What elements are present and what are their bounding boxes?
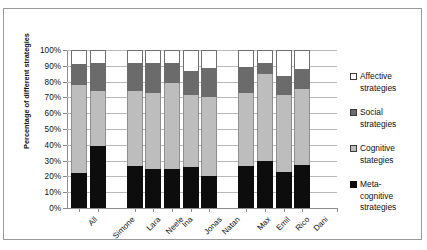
- bar-segment-affective[interactable]: [183, 50, 199, 71]
- bar-segment-affective[interactable]: [145, 50, 161, 63]
- y-axis-label: 10%: [45, 188, 61, 197]
- bar-segment-affective[interactable]: [238, 50, 254, 67]
- y-axis-tick: [63, 82, 67, 83]
- bar-segment-meta-cognitive[interactable]: [145, 169, 161, 208]
- x-axis-label: Lara: [144, 215, 162, 233]
- x-axis-label: Ina: [180, 215, 194, 229]
- chart-frame: Percentage of different strategies 0%10%…: [3, 8, 422, 240]
- bar-segment-cognitive[interactable]: [276, 95, 292, 172]
- legend-item[interactable]: Affectivestrategies: [350, 71, 426, 94]
- bar-segment-social[interactable]: [127, 63, 143, 91]
- bar-segment-cognitive[interactable]: [90, 91, 106, 146]
- bar-segment-social[interactable]: [71, 64, 87, 85]
- cognitive-swatch-icon: [350, 145, 357, 152]
- x-axis-tick: [337, 208, 338, 212]
- bar-segment-meta-cognitive[interactable]: [183, 167, 199, 208]
- y-axis-tick: [63, 97, 67, 98]
- y-axis-tick: [63, 161, 67, 162]
- bar-column[interactable]: [257, 50, 273, 208]
- bar-segment-affective[interactable]: [276, 50, 292, 76]
- y-axis-tick: [63, 192, 67, 193]
- legend-item-label: Affectivestrategies: [360, 71, 396, 94]
- legend-item-label: Meta-cognitivestrategies: [360, 179, 396, 214]
- bar-segment-social[interactable]: [90, 63, 106, 91]
- bar-column[interactable]: [164, 50, 180, 208]
- bar-segment-affective[interactable]: [90, 50, 106, 63]
- bar-segment-affective[interactable]: [201, 50, 217, 68]
- bar-column[interactable]: [90, 50, 106, 208]
- y-axis-label: 90%: [45, 61, 61, 70]
- legend-item[interactable]: Meta-cognitivestrategies: [350, 179, 426, 214]
- legend-item-label: Cognitivestategies: [360, 143, 395, 166]
- bar-segment-social[interactable]: [183, 71, 199, 95]
- bar-segment-cognitive[interactable]: [145, 93, 161, 169]
- bar-segment-affective[interactable]: [257, 50, 273, 63]
- legend-item[interactable]: Cognitivestategies: [350, 143, 426, 166]
- x-axis-label: Max: [256, 215, 273, 232]
- bar-segment-social[interactable]: [257, 63, 273, 73]
- y-axis-label: 40%: [45, 140, 61, 149]
- x-axis-label: Rico: [293, 215, 311, 233]
- bar-segment-meta-cognitive[interactable]: [71, 173, 87, 208]
- bar-segment-meta-cognitive[interactable]: [276, 172, 292, 208]
- x-axis-label: Jonas: [202, 215, 223, 236]
- plot-area: 0%10%20%30%40%50%60%70%80%90%100% AllSim…: [67, 50, 337, 208]
- bar-segment-social[interactable]: [276, 76, 292, 95]
- y-axis-label: 80%: [45, 77, 61, 86]
- bar-segment-cognitive[interactable]: [127, 91, 143, 166]
- y-axis-label: 20%: [45, 172, 61, 181]
- bar-segment-meta-cognitive[interactable]: [257, 161, 273, 208]
- x-axis-label: Simone: [111, 215, 137, 241]
- bar-column[interactable]: [276, 50, 292, 208]
- x-axis-label: Dani: [312, 215, 330, 233]
- legend-item[interactable]: Socialstrategies: [350, 107, 426, 130]
- bar-segment-cognitive[interactable]: [71, 85, 87, 173]
- bar-segment-cognitive[interactable]: [183, 95, 199, 167]
- affective-swatch-icon: [350, 73, 357, 80]
- y-axis-label: 30%: [45, 156, 61, 165]
- y-axis-tick: [63, 176, 67, 177]
- y-axis-tick: [63, 66, 67, 67]
- bar-segment-meta-cognitive[interactable]: [127, 166, 143, 208]
- y-axis-tick: [63, 145, 67, 146]
- bar-column[interactable]: [71, 50, 87, 208]
- bar-segment-cognitive[interactable]: [201, 97, 217, 176]
- bar-column[interactable]: [183, 50, 199, 208]
- bar-column[interactable]: [127, 50, 143, 208]
- bar-segment-cognitive[interactable]: [238, 93, 254, 166]
- y-axis-tick: [63, 113, 67, 114]
- y-axis-tick: [63, 50, 67, 51]
- bar-segment-social[interactable]: [201, 68, 217, 96]
- bar-segment-social[interactable]: [294, 69, 310, 89]
- bar-segment-cognitive[interactable]: [294, 89, 310, 165]
- bar-segment-affective[interactable]: [164, 50, 180, 63]
- social-swatch-icon: [350, 109, 357, 116]
- y-axis-label: 0%: [49, 204, 61, 213]
- bar-segment-social[interactable]: [238, 67, 254, 93]
- bar-segment-meta-cognitive[interactable]: [90, 146, 106, 208]
- bar-segment-meta-cognitive[interactable]: [201, 176, 217, 208]
- bar-segment-meta-cognitive[interactable]: [294, 165, 310, 208]
- y-axis-label: 100%: [40, 46, 61, 55]
- bar-column[interactable]: [294, 50, 310, 208]
- bar-segment-meta-cognitive[interactable]: [238, 166, 254, 208]
- bar-segment-social[interactable]: [164, 63, 180, 84]
- bar-segment-cognitive[interactable]: [164, 83, 180, 168]
- legend-item-label: Socialstrategies: [360, 107, 396, 130]
- x-axis-label: Emil: [275, 215, 292, 232]
- bar-column[interactable]: [201, 50, 217, 208]
- bar-column[interactable]: [145, 50, 161, 208]
- x-axis-line: [67, 208, 337, 209]
- y-axis-tick: [63, 129, 67, 130]
- bar-segment-affective[interactable]: [294, 50, 310, 69]
- y-axis-label: 70%: [45, 93, 61, 102]
- chart-legend: AffectivestrategiesSocialstrategiesCogni…: [350, 71, 426, 227]
- bar-segment-cognitive[interactable]: [257, 74, 273, 162]
- bar-segment-social[interactable]: [145, 63, 161, 93]
- bar-column[interactable]: [238, 50, 254, 208]
- meta-cognitive-swatch-icon: [350, 181, 357, 188]
- bar-segment-meta-cognitive[interactable]: [164, 169, 180, 209]
- bar-segment-affective[interactable]: [71, 50, 87, 64]
- y-axis-title: Percentage of different strategies: [22, 21, 34, 161]
- bar-segment-affective[interactable]: [127, 50, 143, 63]
